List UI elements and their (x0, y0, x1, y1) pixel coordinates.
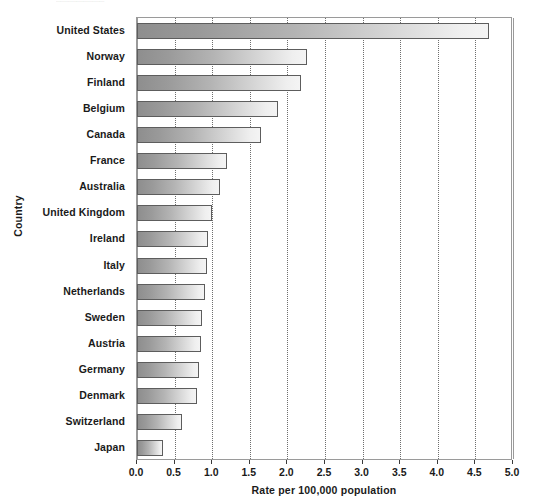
y-tick-united-kingdom: United Kingdom (0, 199, 130, 225)
y-tick-belgium: Belgium (0, 95, 130, 121)
y-tick-australia: Australia (0, 173, 130, 199)
bar-row (137, 383, 511, 409)
bar-row (137, 331, 511, 357)
y-tick-label: Japan (0, 434, 130, 460)
bar-denmark (137, 388, 197, 404)
y-tick-denmark: Denmark (0, 382, 130, 408)
x-tickmark-2.0 (286, 460, 287, 464)
bar-row (137, 18, 511, 44)
y-tick-label: United States (0, 17, 130, 43)
y-tick-label: France (0, 147, 130, 173)
y-tick-france: France (0, 147, 130, 173)
bar-germany (137, 362, 199, 378)
bar-sweden (137, 310, 202, 326)
bar-netherlands (137, 284, 205, 300)
y-tick-label: Canada (0, 121, 130, 147)
x-tickmark-0.5 (174, 460, 175, 464)
bar-united-states (137, 23, 489, 39)
bar-italy (137, 258, 207, 274)
y-tick-label: Ireland (0, 225, 130, 251)
y-tick-sweden: Sweden (0, 304, 130, 330)
y-tick-finland: Finland (0, 69, 130, 95)
y-tick-italy: Italy (0, 252, 130, 278)
x-tickmark-1.5 (249, 460, 250, 464)
y-tick-label: Switzerland (0, 408, 130, 434)
bar-japan (137, 440, 163, 456)
bar-row (137, 174, 511, 200)
bar-row (137, 305, 511, 331)
plot-area (136, 17, 512, 460)
bar-series (137, 18, 511, 459)
bar-united-kingdom (137, 205, 212, 221)
bar-ireland (137, 231, 208, 247)
bar-row (137, 96, 511, 122)
x-axis-ticks: 0.00.51.01.52.02.53.03.54.04.55.0 (136, 460, 512, 484)
x-tickmark-3.5 (399, 460, 400, 464)
bar-norway (137, 49, 307, 65)
y-tick-label: United Kingdom (0, 199, 130, 225)
x-tickmark-4.5 (474, 460, 475, 464)
x-tickmark-4.0 (437, 460, 438, 464)
x-tickmark-2.5 (324, 460, 325, 464)
bar-row (137, 70, 511, 96)
y-tick-austria: Austria (0, 330, 130, 356)
bar-austria (137, 336, 201, 352)
bar-row (137, 148, 511, 174)
y-tick-canada: Canada (0, 121, 130, 147)
x-tickmark-5.0 (512, 460, 513, 464)
x-tickmark-1.0 (211, 460, 212, 464)
x-axis-title: Rate per 100,000 population (136, 484, 512, 496)
y-tick-united-states: United States (0, 17, 130, 43)
caption-fragment-text: ........................................ (56, 0, 142, 4)
y-tick-label: Denmark (0, 382, 130, 408)
bar-row (137, 435, 511, 461)
bar-row (137, 253, 511, 279)
y-axis-tick-labels: United StatesNorwayFinlandBelgiumCanadaF… (0, 17, 130, 460)
y-tick-netherlands: Netherlands (0, 278, 130, 304)
bar-row (137, 200, 511, 226)
y-tick-label: Sweden (0, 304, 130, 330)
bar-row (137, 122, 511, 148)
x-tick-label-5.0: 5.0 (490, 466, 534, 478)
y-tick-germany: Germany (0, 356, 130, 382)
y-tick-label: Belgium (0, 95, 130, 121)
gridline-5.0 (513, 18, 514, 459)
bar-row (137, 357, 511, 383)
y-tick-label: Italy (0, 252, 130, 278)
bar-row (137, 409, 511, 435)
bar-france (137, 153, 227, 169)
x-tickmark-3.0 (362, 460, 363, 464)
bar-switzerland (137, 414, 182, 430)
bar-canada (137, 127, 261, 143)
y-tick-ireland: Ireland (0, 225, 130, 251)
bar-belgium (137, 101, 278, 117)
y-tick-label: Norway (0, 43, 130, 69)
bar-row (137, 44, 511, 70)
bar-row (137, 279, 511, 305)
y-tick-japan: Japan (0, 434, 130, 460)
chart-page: ........................................… (0, 0, 539, 502)
y-tick-label: Germany (0, 356, 130, 382)
y-tick-label: Austria (0, 330, 130, 356)
y-tick-label: Finland (0, 69, 130, 95)
bar-finland (137, 75, 301, 91)
y-tick-norway: Norway (0, 43, 130, 69)
x-tickmark-0.0 (136, 460, 137, 464)
y-tick-label: Australia (0, 173, 130, 199)
y-tick-label: Netherlands (0, 278, 130, 304)
bar-row (137, 226, 511, 252)
y-tick-switzerland: Switzerland (0, 408, 130, 434)
bar-australia (137, 179, 220, 195)
